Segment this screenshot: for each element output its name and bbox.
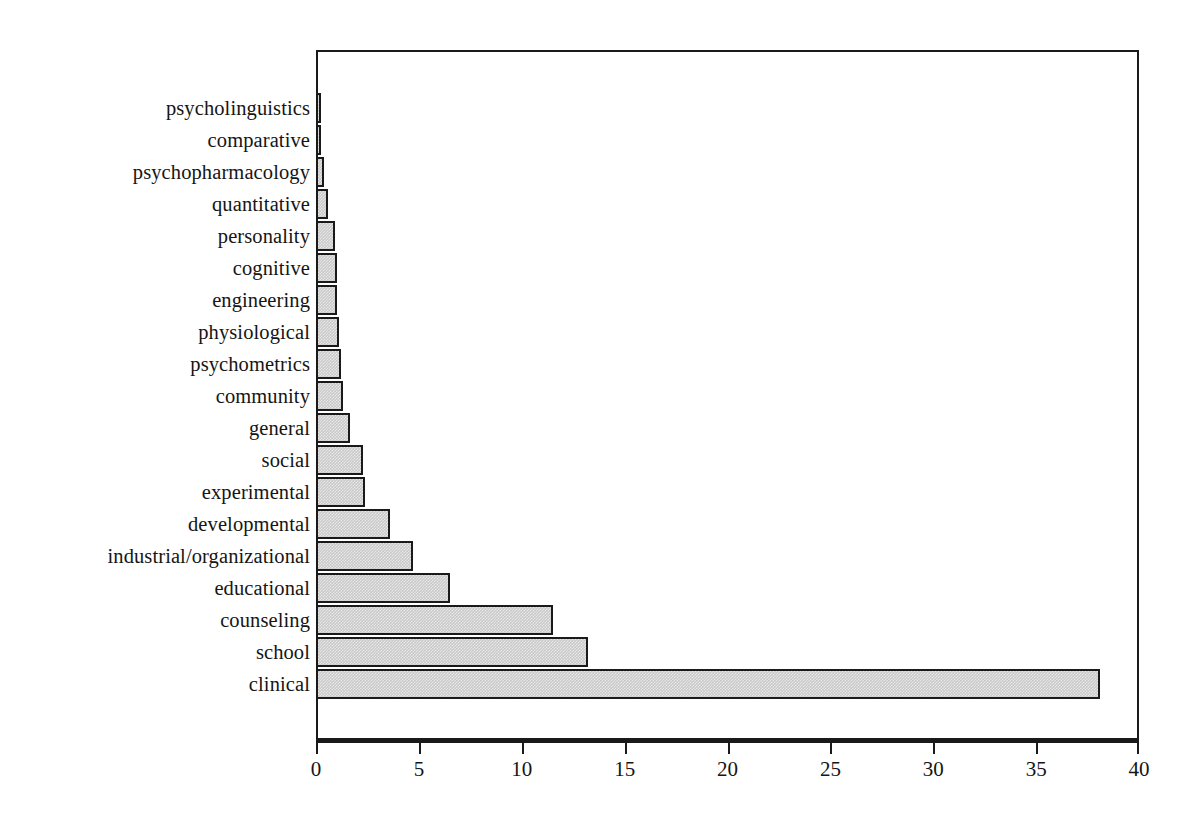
bar-row xyxy=(316,668,1139,700)
bar xyxy=(316,285,337,315)
bar xyxy=(316,605,553,635)
category-label-row: community xyxy=(0,380,310,412)
bar xyxy=(316,93,321,123)
bar-row xyxy=(316,636,1139,668)
x-axis-tick xyxy=(316,743,318,754)
category-label: quantitative xyxy=(212,194,310,215)
category-label: personality xyxy=(218,226,310,247)
bar-row xyxy=(316,156,1139,188)
category-label-row: quantitative xyxy=(0,188,310,220)
bar xyxy=(316,573,450,603)
x-axis-tick-label: 0 xyxy=(311,759,322,780)
category-label: community xyxy=(216,386,310,407)
category-label: psychometrics xyxy=(190,354,310,375)
bar-row xyxy=(316,124,1139,156)
bar xyxy=(316,509,390,539)
category-label-row: comparative xyxy=(0,124,310,156)
category-label: general xyxy=(249,418,310,439)
category-label: experimental xyxy=(202,482,310,503)
bar-chart: psycholinguisticscomparativepsychopharma… xyxy=(0,0,1204,828)
category-label: clinical xyxy=(249,674,310,695)
category-label-row: cognitive xyxy=(0,252,310,284)
category-label-row: school xyxy=(0,636,310,668)
bar-row xyxy=(316,220,1139,252)
x-axis-tick-label: 35 xyxy=(1026,759,1047,780)
bar xyxy=(316,413,350,443)
category-label-row: psychopharmacology xyxy=(0,156,310,188)
bar-row xyxy=(316,412,1139,444)
bar xyxy=(316,317,339,347)
x-axis-tick xyxy=(728,743,730,754)
category-label-row: physiological xyxy=(0,316,310,348)
bar xyxy=(316,477,365,507)
category-label-row: personality xyxy=(0,220,310,252)
category-label: engineering xyxy=(212,290,310,311)
bar xyxy=(316,125,321,155)
category-label-row: educational xyxy=(0,572,310,604)
bar xyxy=(316,221,335,251)
bar-row xyxy=(316,188,1139,220)
x-axis-tick-label: 40 xyxy=(1129,759,1150,780)
bar-row xyxy=(316,348,1139,380)
x-axis-tick xyxy=(933,743,935,754)
category-label: comparative xyxy=(208,130,310,151)
x-axis-tick xyxy=(1036,743,1038,754)
bar xyxy=(316,349,341,379)
category-label: industrial/organizational xyxy=(107,546,310,567)
bar-row xyxy=(316,284,1139,316)
category-label: psycholinguistics xyxy=(166,98,310,119)
bar-row xyxy=(316,444,1139,476)
category-axis-labels: psycholinguisticscomparativepsychopharma… xyxy=(0,92,310,700)
category-label-row: psychometrics xyxy=(0,348,310,380)
category-label: educational xyxy=(214,578,310,599)
category-label-row: industrial/organizational xyxy=(0,540,310,572)
category-label: counseling xyxy=(220,610,310,631)
bar-row xyxy=(316,92,1139,124)
x-axis-tick xyxy=(419,743,421,754)
bar xyxy=(316,253,337,283)
category-label: physiological xyxy=(198,322,310,343)
category-label-row: experimental xyxy=(0,476,310,508)
bar-series xyxy=(316,92,1139,700)
x-axis-tick-label: 10 xyxy=(511,759,532,780)
category-label-row: engineering xyxy=(0,284,310,316)
category-label: social xyxy=(262,450,310,471)
bar-row xyxy=(316,380,1139,412)
x-axis-tick-label: 20 xyxy=(717,759,738,780)
bar-row xyxy=(316,604,1139,636)
bar xyxy=(316,445,363,475)
bar xyxy=(316,189,328,219)
bar-row xyxy=(316,508,1139,540)
x-axis-tick-label: 25 xyxy=(820,759,841,780)
x-axis-tick xyxy=(522,743,524,754)
category-label-row: developmental xyxy=(0,508,310,540)
category-label-row: counseling xyxy=(0,604,310,636)
x-axis-tick xyxy=(625,743,627,754)
category-label-row: psycholinguistics xyxy=(0,92,310,124)
bar xyxy=(316,637,588,667)
bar xyxy=(316,669,1100,699)
category-label: psychopharmacology xyxy=(133,162,310,183)
bar-row xyxy=(316,316,1139,348)
x-axis-tick xyxy=(1137,743,1139,754)
category-label-row: social xyxy=(0,444,310,476)
category-label: cognitive xyxy=(233,258,310,279)
category-label-row: general xyxy=(0,412,310,444)
bar-row xyxy=(316,252,1139,284)
x-axis-tick-label: 5 xyxy=(414,759,425,780)
x-axis-tick-label: 15 xyxy=(614,759,635,780)
bar-row xyxy=(316,540,1139,572)
bar xyxy=(316,381,343,411)
x-axis-tick xyxy=(830,743,832,754)
category-label-row: clinical xyxy=(0,668,310,700)
bar xyxy=(316,541,413,571)
bar-row xyxy=(316,572,1139,604)
x-axis: 0510152025303540 xyxy=(316,740,1139,743)
x-axis-tick-label: 30 xyxy=(923,759,944,780)
category-label: developmental xyxy=(188,514,310,535)
bar xyxy=(316,157,324,187)
category-label: school xyxy=(256,642,310,663)
bar-row xyxy=(316,476,1139,508)
